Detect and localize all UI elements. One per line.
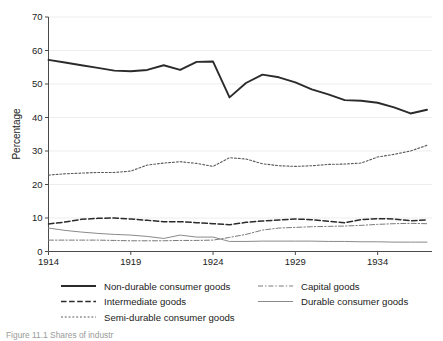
x-tick-label: 1924 (202, 256, 223, 267)
x-tick-label: 1929 (285, 256, 306, 267)
y-tick-label: 40 (32, 112, 43, 123)
figure-caption: Figure 11.1 Shares of industr (6, 330, 114, 340)
series-line-4 (49, 223, 428, 240)
y-tick-label: 70 (32, 11, 43, 22)
chart-legend: Non-durable consumer goodsIntermediate g… (61, 281, 408, 323)
figure-container: 010203040506070 19141919192419291934 Per… (0, 0, 443, 341)
gridlines-group (49, 17, 433, 218)
legend-label: Intermediate goods (104, 296, 186, 307)
x-tick-label: 1934 (367, 256, 388, 267)
y-tick-label: 50 (32, 78, 43, 89)
series-line-2 (49, 218, 428, 225)
series-line-1 (49, 145, 428, 175)
y-tick-label: 30 (32, 145, 43, 156)
y-tick-label: 20 (32, 179, 43, 190)
series-line-0 (49, 60, 428, 114)
y-tick-group: 010203040506070 (32, 11, 49, 257)
x-tick-label: 1919 (120, 256, 141, 267)
legend-label: Non-durable consumer goods (104, 281, 231, 292)
legend-label: Capital goods (301, 281, 360, 292)
y-tick-label: 10 (32, 212, 43, 223)
percentage-shares-line-chart: 010203040506070 19141919192419291934 Per… (0, 0, 443, 341)
y-axis-title: Percentage (11, 108, 22, 160)
x-tick-group: 19141919192419291934 (38, 252, 388, 268)
x-tick-label: 1914 (38, 256, 59, 267)
legend-label: Semi-durable consumer goods (104, 312, 235, 323)
legend-label: Durable consumer goods (301, 296, 408, 307)
y-tick-label: 60 (32, 45, 43, 56)
